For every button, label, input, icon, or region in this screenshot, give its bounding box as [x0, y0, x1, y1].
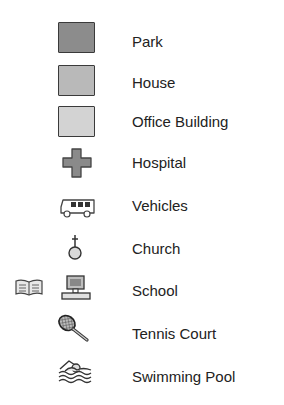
legend-label: Swimming Pool [132, 368, 235, 386]
legend-label: Tennis Court [132, 325, 216, 343]
tennis-racket-icon [57, 314, 91, 344]
park-swatch [58, 22, 95, 53]
legend-item-swimming-pool: Swimming Pool [0, 357, 284, 397]
legend-label: Church [132, 240, 180, 258]
legend-label: Park [132, 33, 163, 51]
legend-label: Vehicles [132, 197, 188, 215]
legend-item-house: House [0, 65, 284, 105]
church-icon [67, 234, 83, 262]
house-swatch [58, 65, 95, 96]
legend-item-vehicles: Vehicles [0, 193, 284, 233]
legend-label: Office Building [132, 113, 228, 131]
cross-icon [61, 147, 93, 179]
legend-label: Hospital [132, 154, 186, 172]
map-legend: Park House Office Building Hospital [0, 0, 284, 405]
legend-label: House [132, 74, 175, 92]
legend-label: School [132, 282, 178, 300]
office-building-swatch [58, 106, 95, 137]
bus-icon [57, 195, 97, 219]
legend-item-office-building: Office Building [0, 106, 284, 146]
swimmer-icon [57, 357, 95, 385]
computer-icon [60, 274, 92, 302]
legend-item-tennis-court: Tennis Court [0, 314, 284, 354]
legend-item-school: School [0, 274, 284, 314]
legend-item-church: Church [0, 234, 284, 274]
legend-item-park: Park [0, 22, 284, 62]
book-icon [14, 278, 44, 296]
legend-item-hospital: Hospital [0, 146, 284, 186]
